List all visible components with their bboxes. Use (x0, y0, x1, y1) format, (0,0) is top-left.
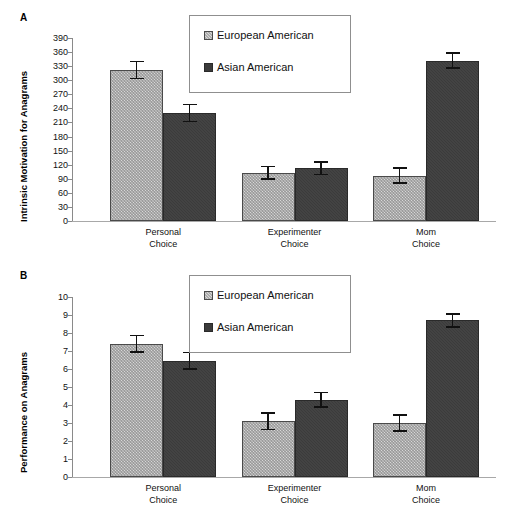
y-axis-tick-mark (68, 477, 72, 478)
y-axis-tick-mark (68, 387, 72, 388)
y-axis-tick-mark (68, 441, 72, 442)
error-bar-cap-bottom (261, 429, 275, 431)
error-bar (183, 104, 197, 123)
y-axis-tick-mark (68, 315, 72, 316)
error-bar-cap-top (130, 335, 144, 337)
panel-letter-a: A (20, 12, 27, 23)
y-axis-tick-mark (68, 193, 72, 194)
bar-asian-american (163, 361, 216, 477)
y-axis-tick-mark (68, 351, 72, 352)
x-axis-tick-label: Mom Choice (366, 483, 486, 506)
error-bar-cap-bottom (393, 182, 407, 184)
error-bar-stem (189, 104, 191, 123)
error-bar (393, 414, 407, 432)
error-bar-cap-top (393, 167, 407, 169)
legend-item-label: European American (217, 290, 314, 301)
error-bar (446, 313, 460, 327)
error-bar-cap-bottom (314, 174, 328, 176)
legend: European AmericanAsian American (189, 275, 351, 353)
bar-asian-american (426, 320, 479, 477)
y-axis-tick-mark (68, 423, 72, 424)
y-axis-tick-mark (68, 66, 72, 67)
error-bar-cap-top (130, 61, 144, 63)
error-bar-cap-bottom (261, 178, 275, 180)
dark-solid-swatch (204, 323, 213, 332)
error-bar-cap-bottom (393, 430, 407, 432)
legend-item: Asian American (204, 322, 293, 333)
y-axis-tick-mark (68, 52, 72, 53)
y-axis-tick-mark (68, 38, 72, 39)
y-axis-tick-mark (68, 165, 72, 166)
error-bar-cap-bottom (446, 67, 460, 69)
error-bar-cap-bottom (446, 326, 460, 328)
y-axis-tick-mark (68, 108, 72, 109)
legend: European AmericanAsian American (189, 15, 351, 93)
error-bar (314, 161, 328, 175)
x-axis-tick-label: Personal Choice (103, 483, 223, 506)
legend-item: European American (204, 30, 314, 41)
plot-area-a: 3903603303002702402101801501209060300Per… (72, 38, 496, 221)
error-bar (261, 412, 275, 430)
y-axis-line (72, 38, 73, 221)
y-axis-title-a: Intrinsic Motivation for Anagrams (18, 71, 29, 222)
error-bar (183, 352, 197, 370)
bar-asian-american (295, 400, 348, 477)
error-bar-stem (136, 335, 138, 353)
error-bar (261, 166, 275, 180)
error-bar-cap-top (314, 392, 328, 394)
panel-letter-b: B (20, 270, 27, 281)
y-axis-tick-mark (68, 333, 72, 334)
error-bar (130, 335, 144, 353)
x-axis-tick-label: Mom Choice (366, 227, 486, 250)
error-bar-stem (399, 414, 401, 432)
y-axis-tick-mark (68, 122, 72, 123)
legend-item-label: Asian American (217, 322, 293, 333)
x-axis-tick-label: Experimenter Choice (235, 483, 355, 506)
error-bar-cap-bottom (130, 78, 144, 80)
error-bar-cap-bottom (130, 351, 144, 353)
error-bar-cap-bottom (183, 368, 197, 370)
y-axis-tick-mark (68, 221, 72, 222)
error-bar-cap-top (393, 414, 407, 416)
error-bar-cap-bottom (314, 406, 328, 408)
y-axis-tick-mark (68, 80, 72, 81)
plot-area-b: 109876543210Personal ChoiceExperimenter … (72, 297, 496, 477)
light-hatched-swatch (204, 31, 213, 40)
error-bar (393, 167, 407, 184)
y-axis-tick-mark (68, 94, 72, 95)
error-bar (130, 61, 144, 80)
error-bar-cap-bottom (183, 121, 197, 123)
bar-asian-american (426, 61, 479, 221)
bar-asian-american (163, 113, 216, 221)
error-bar-cap-top (261, 166, 275, 168)
panel-b: B Performance on Anagrams 109876543210Pe… (0, 260, 508, 520)
bar-asian-american (295, 168, 348, 221)
legend-item-label: Asian American (217, 62, 293, 73)
x-axis-line (72, 221, 496, 222)
error-bar-cap-top (446, 52, 460, 54)
error-bar (446, 52, 460, 69)
error-bar-cap-top (261, 412, 275, 414)
y-axis-tick-mark (68, 459, 72, 460)
error-bar-stem (136, 61, 138, 80)
error-bar (314, 392, 328, 408)
y-axis-tick-mark (68, 151, 72, 152)
error-bar-cap-top (183, 104, 197, 106)
legend-item: Asian American (204, 62, 293, 73)
y-axis-line (72, 297, 73, 477)
y-axis-tick-mark (68, 179, 72, 180)
error-bar-stem (189, 352, 191, 370)
legend-item: European American (204, 290, 314, 301)
light-hatched-swatch (204, 291, 213, 300)
y-axis-tick-mark (68, 297, 72, 298)
dark-solid-swatch (204, 63, 213, 72)
error-bar-stem (267, 412, 269, 430)
y-axis-tick-mark (68, 207, 72, 208)
y-axis-title-b: Performance on Anagrams (18, 352, 29, 473)
x-axis-tick-label: Personal Choice (103, 227, 223, 250)
y-axis-tick-mark (68, 405, 72, 406)
x-axis-tick-label: Experimenter Choice (235, 227, 355, 250)
legend-item-label: European American (217, 30, 314, 41)
x-axis-line (72, 477, 496, 478)
y-axis-tick-mark (68, 137, 72, 138)
